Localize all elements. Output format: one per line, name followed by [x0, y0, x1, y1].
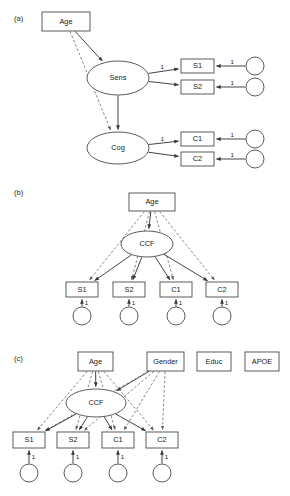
edge-label-ec1-to-c1: 1 — [179, 299, 183, 306]
residual-circle-e-c1 — [246, 130, 264, 148]
edge-sens-to-s2 — [149, 81, 179, 84]
node-label-c1: C1 — [113, 435, 122, 444]
edge-cog-to-c1 — [149, 141, 179, 144]
edge-label-ec1-to-c1: 1 — [121, 453, 125, 460]
node-label-age: Age — [89, 357, 102, 366]
panel-c-node-apoe: APOE — [245, 352, 279, 371]
panel-c-node-e-c1 — [109, 464, 127, 482]
panel-a-node-cog: Cog — [87, 132, 149, 164]
panel-b-node-e-s1 — [73, 307, 91, 325]
residual-circle-e-c1 — [167, 307, 185, 325]
edge-gender-to-ccf — [117, 371, 150, 390]
node-label-gender: Gender — [153, 357, 178, 366]
node-label-c2: C2 — [217, 285, 226, 294]
edge-label-ec2-to-c2: 1 — [230, 151, 234, 158]
edge-ccf-to-c1 — [155, 257, 170, 280]
panel-a-node-age: Age — [42, 12, 90, 31]
panel-c-node-e-s1 — [20, 464, 38, 482]
node-label-s1: S1 — [24, 435, 33, 444]
node-label-c1: C1 — [193, 134, 202, 143]
edge-ccf-to-c2 — [116, 414, 146, 431]
panel-b-node-s1: S1 — [66, 282, 98, 297]
sem-path-diagram-figure: AgeSensCogS1S2C1C2AgeCCFS1S2C1C2AgeGende… — [0, 0, 290, 496]
edge-ccf-to-s1 — [95, 255, 132, 281]
panel-c-node-e-c2 — [153, 464, 171, 482]
residual-circle-e-c1 — [109, 464, 127, 482]
edge-ccf-to-s2 — [133, 257, 142, 279]
panel-a-node-c1: C1 — [181, 132, 214, 146]
panel-c-node-e-s2 — [64, 464, 82, 482]
node-label-s2: S2 — [193, 82, 202, 91]
node-label-educ: Educ — [206, 357, 223, 366]
edge-ccf-to-s1 — [46, 414, 77, 431]
edge-gender-to-c1 — [124, 371, 159, 429]
edge-label-ec2-to-c2: 1 — [165, 453, 169, 460]
edge-label-es2-to-s2: 1 — [230, 79, 234, 86]
edge-label-es1-to-s1: 1 — [85, 299, 89, 306]
edge-label-ec1-to-c1: 1 — [230, 131, 234, 138]
panel-a-node-e-s1 — [246, 57, 264, 75]
panel-b-node-e-c2 — [213, 307, 231, 325]
node-label-cog: Cog — [111, 143, 125, 152]
diagram-canvas: AgeSensCogS1S2C1C2AgeCCFS1S2C1C2AgeGende… — [0, 0, 290, 496]
panel-label-panel-a: (a) — [14, 14, 24, 23]
edge-label-es2-to-s2: 1 — [132, 299, 136, 306]
panel-c-node-ccf: CCF — [66, 389, 126, 417]
node-label-s2: S2 — [124, 285, 133, 294]
node-label-c2: C2 — [193, 154, 202, 163]
panel-a-node-e-c1 — [246, 130, 264, 148]
panel-a-node-e-c2 — [246, 150, 264, 168]
node-label-sens: Sens — [110, 73, 127, 82]
residual-circle-e-s1 — [246, 57, 264, 75]
residual-circle-e-s1 — [20, 464, 38, 482]
node-label-s1: S1 — [193, 61, 202, 70]
residual-circle-e-s2 — [64, 464, 82, 482]
panel-c-node-age: Age — [78, 352, 113, 371]
panel-a-node-s2: S2 — [181, 80, 214, 94]
panel-b-node-c2: C2 — [206, 282, 238, 297]
edge-gender-to-c2 — [162, 372, 165, 430]
residual-circle-e-c2 — [153, 464, 171, 482]
node-label-apoe: APOE — [252, 357, 273, 366]
panel-label-panel-c: (c) — [14, 354, 23, 363]
edge-label-es2-to-s2: 1 — [76, 453, 80, 460]
edge-ccf-to-c2 — [164, 254, 208, 280]
edge-age-to-sens — [75, 31, 102, 61]
node-label-ccf: CCF — [88, 398, 104, 407]
panel-a-node-sens: Sens — [87, 61, 149, 95]
edge-label-es1-to-s1: 1 — [230, 58, 234, 65]
node-label-ccf: CCF — [139, 239, 155, 248]
panel-a-node-c2: C2 — [181, 152, 214, 166]
edge-label-cog-to-c1: 1 — [161, 135, 165, 142]
node-label-s1: S1 — [77, 285, 86, 294]
residual-circle-e-s1 — [73, 307, 91, 325]
panel-c-node-gender: Gender — [147, 352, 184, 371]
node-label-s2: S2 — [68, 435, 77, 444]
edge-label-sens-to-s1: 1 — [161, 63, 165, 70]
panel-b-node-s2: S2 — [113, 282, 145, 297]
panel-b-node-e-s2 — [120, 307, 138, 325]
panel-c-node-c2: C2 — [146, 432, 178, 448]
residual-circle-e-c2 — [213, 307, 231, 325]
panel-b-node-age: Age — [129, 193, 175, 211]
residual-circle-e-c2 — [246, 150, 264, 168]
panel-c-node-s2: S2 — [57, 432, 89, 448]
panel-b-node-e-c1 — [167, 307, 185, 325]
node-label-c2: C2 — [157, 435, 166, 444]
panel-a-node-s1: S1 — [181, 59, 214, 73]
residual-circle-e-s2 — [246, 78, 264, 96]
edge-label-ec2-to-c2: 1 — [225, 299, 229, 306]
edge-ccf-to-c1 — [104, 417, 112, 430]
edge-label-es1-to-s1: 1 — [32, 453, 36, 460]
node-label-c1: C1 — [171, 285, 180, 294]
node-label-age: Age — [145, 197, 158, 206]
edge-cog-to-c2 — [148, 152, 178, 156]
panel-c-node-s1: S1 — [13, 432, 45, 448]
panel-a-node-e-s2 — [246, 78, 264, 96]
panel-c-node-educ: Educ — [197, 352, 231, 371]
residual-circle-e-s2 — [120, 307, 138, 325]
edge-ccf-to-s2 — [79, 417, 87, 430]
panel-b-node-ccf: CCF — [121, 231, 173, 257]
panel-b-node-c1: C1 — [160, 282, 192, 297]
panel-label-panel-b: (b) — [14, 188, 24, 197]
